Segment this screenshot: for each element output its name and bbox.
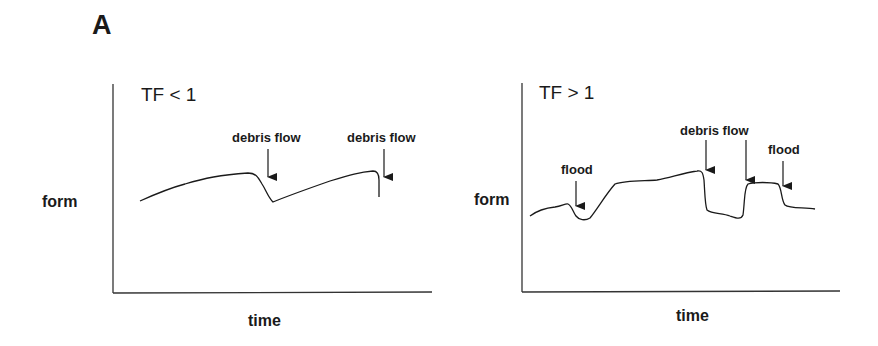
left-chart-line	[140, 171, 379, 202]
left-chart-ylabel: form	[42, 193, 78, 211]
right-chart-xlabel: time	[676, 307, 709, 325]
right-annotation-flood-1: flood	[561, 162, 593, 177]
left-annotation-debris-flow-1: debris flow	[232, 130, 301, 145]
right-chart-axes	[522, 83, 840, 292]
right-chart-line	[530, 171, 815, 220]
plots-svg	[0, 0, 878, 346]
left-chart-axes	[113, 84, 432, 293]
right-chart-ylabel: form	[474, 191, 510, 209]
right-annotation-flood-2: flood	[768, 142, 800, 157]
left-chart-title: TF < 1	[141, 84, 196, 106]
right-chart-title: TF > 1	[539, 82, 594, 104]
left-annotation-debris-flow-2: debris flow	[347, 130, 416, 145]
left-chart-xlabel: time	[248, 312, 281, 330]
right-annotation-debris-flow: debris flow	[680, 123, 749, 138]
